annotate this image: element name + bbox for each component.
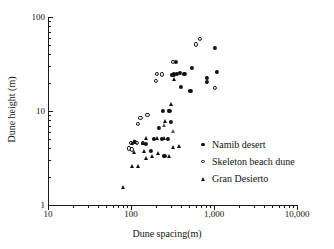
legend-label: Namib desert (210, 139, 266, 150)
x-tick (98, 205, 99, 208)
filled-circle-icon (196, 143, 210, 147)
data-point (161, 109, 165, 113)
legend-item: Namib desert (196, 136, 324, 153)
data-point (141, 141, 145, 145)
x-tick-label: 100 (124, 209, 138, 219)
data-point (130, 164, 134, 168)
x-axis-line (48, 205, 298, 206)
x-axis-title: Dune spacing(m) (0, 228, 334, 239)
data-point (178, 85, 182, 89)
legend-marker-glyph (201, 177, 205, 181)
open-circle-icon (196, 160, 210, 164)
x-tick (113, 205, 114, 208)
data-point (132, 150, 136, 154)
data-point (215, 70, 219, 74)
data-point (190, 65, 194, 69)
x-tick (156, 205, 157, 208)
data-point (171, 145, 175, 149)
data-point (169, 102, 173, 106)
data-point (193, 42, 197, 46)
data-point (144, 136, 148, 140)
legend-label: Gran Desierto (210, 173, 268, 184)
data-point (172, 77, 176, 81)
x-tick (88, 205, 89, 208)
data-point (121, 185, 125, 189)
data-point (162, 136, 166, 140)
data-point (167, 154, 171, 158)
x-tick (293, 205, 294, 208)
data-point (177, 144, 181, 148)
x-tick (181, 205, 182, 208)
x-tick (123, 205, 124, 208)
legend-marker-glyph (201, 143, 205, 147)
data-point (169, 120, 173, 124)
x-tick (171, 205, 172, 208)
data-point (155, 71, 159, 75)
x-tick (289, 205, 290, 208)
data-point (155, 136, 159, 140)
x-tick (210, 205, 211, 208)
data-point (138, 116, 142, 120)
data-point (167, 109, 171, 113)
data-point (136, 164, 140, 168)
data-point (171, 129, 175, 133)
x-tick (118, 205, 119, 208)
data-point (182, 71, 186, 75)
data-point (144, 156, 148, 160)
y-tick-label: 1 (0, 201, 45, 210)
data-point (205, 76, 209, 80)
x-tick (279, 205, 280, 208)
data-point (160, 72, 164, 76)
x-tick (189, 205, 190, 208)
dune-scatter-chart: 110100 101001,00010,000 Dune height (m) … (0, 0, 334, 249)
y-axis-title: Dune height (m) (6, 45, 17, 175)
legend-item: Gran Desierto (196, 170, 324, 187)
data-point (150, 154, 154, 158)
data-point (213, 86, 217, 90)
x-tick (106, 205, 107, 208)
x-tick (196, 205, 197, 208)
data-point (198, 37, 202, 41)
x-tick-label: 10,000 (285, 209, 310, 219)
data-point (154, 79, 158, 83)
data-point (156, 151, 160, 155)
x-tick-label: 10 (44, 209, 53, 219)
filled-triangle-icon (196, 177, 210, 181)
data-point (145, 113, 149, 117)
data-point (135, 122, 139, 126)
x-tick (239, 205, 240, 208)
x-tick (73, 205, 74, 208)
x-tick-label: 1,000 (204, 209, 224, 219)
data-point (142, 149, 146, 153)
data-point (166, 137, 170, 141)
chart-legend: Namib desertSkeleton beach duneGran Desi… (196, 136, 324, 187)
data-point (213, 46, 217, 50)
x-tick (254, 205, 255, 208)
x-tick (206, 205, 207, 208)
x-tick (127, 205, 128, 208)
data-point (133, 140, 137, 144)
x-tick (284, 205, 285, 208)
data-point (156, 126, 160, 130)
x-tick (272, 205, 273, 208)
data-point (188, 88, 192, 92)
y-tick-label: 100 (0, 13, 45, 22)
legend-item: Skeleton beach dune (196, 153, 324, 170)
x-tick (201, 205, 202, 208)
data-point (205, 80, 209, 84)
data-point (149, 148, 153, 152)
data-point (162, 123, 166, 127)
legend-marker-glyph (201, 160, 205, 164)
x-tick (264, 205, 265, 208)
legend-label: Skeleton beach dune (210, 156, 295, 167)
